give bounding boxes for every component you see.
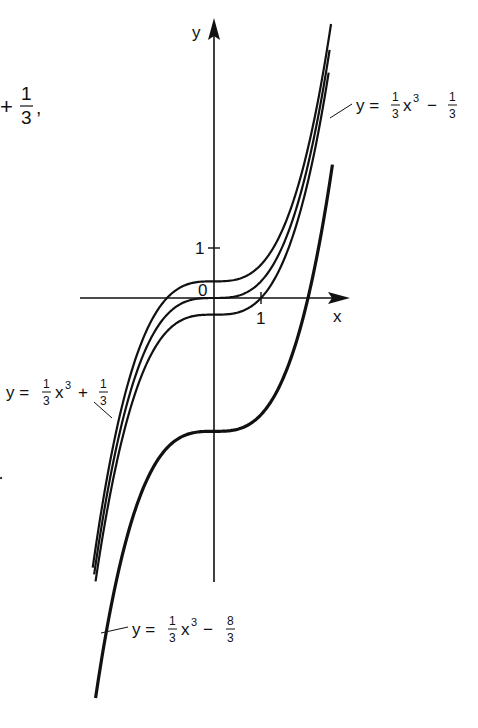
label-var: x — [55, 383, 64, 402]
label-cnum: 8 — [227, 614, 234, 628]
x-axis-label: x — [333, 307, 342, 326]
cubic-family-plot: y x 0 1 1 + 1 3 , y = 1 3 x 3 − 1 3 y = … — [0, 0, 478, 728]
fragment-top-left: + 1 3 , — [0, 83, 41, 128]
label-op: + — [78, 383, 88, 402]
label-op: − — [203, 620, 213, 639]
label-cnum: 1 — [449, 90, 456, 104]
label-var: x — [403, 96, 412, 115]
label-minus-eight-thirds: y = 1 3 x 3 − 8 3 — [101, 614, 235, 645]
y-tick-label: 1 — [195, 239, 204, 258]
label-op: − — [427, 96, 437, 115]
label-cden: 3 — [100, 394, 107, 408]
label-plus-one-third: y = 1 3 x 3 + 1 3 — [6, 377, 112, 418]
curve-minus-one-third — [96, 73, 329, 582]
label-cden: 3 — [449, 107, 456, 121]
curve-zero — [94, 50, 329, 574]
label-lhs: y = — [132, 620, 155, 639]
label-num: 1 — [169, 614, 176, 628]
fragment-comma: , — [36, 97, 41, 118]
label-lhs: y = — [6, 383, 29, 402]
fragment-plus: + — [0, 94, 13, 119]
label-num: 1 — [43, 377, 50, 391]
label-exp: 3 — [413, 92, 419, 104]
curve-plus-one-third — [93, 24, 331, 568]
fragment-num: 1 — [21, 83, 32, 104]
y-axis-label: y — [192, 23, 201, 42]
label-den: 3 — [43, 394, 50, 408]
label-den: 3 — [392, 107, 399, 121]
label-den: 3 — [169, 631, 176, 645]
label-num: 1 — [392, 90, 399, 104]
label-exp: 3 — [65, 379, 71, 391]
leader-line — [330, 104, 352, 118]
label-exp: 3 — [191, 616, 197, 628]
stray-dot — [0, 477, 2, 479]
label-lhs: y = — [356, 96, 379, 115]
x-tick-label: 1 — [256, 309, 265, 328]
label-cden: 3 — [227, 631, 234, 645]
label-cnum: 1 — [100, 377, 107, 391]
label-var: x — [181, 620, 190, 639]
label-minus-one-third: y = 1 3 x 3 − 1 3 — [330, 90, 457, 121]
fragment-den: 3 — [21, 107, 32, 128]
